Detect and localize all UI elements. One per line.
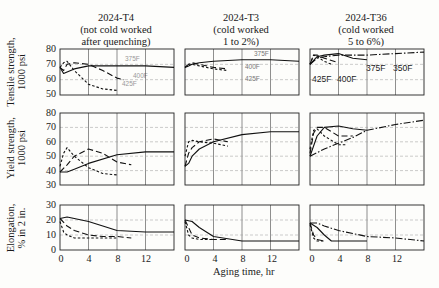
series-line-425F [310, 129, 346, 149]
series-line-425F [185, 64, 228, 70]
series-line-400F [60, 149, 131, 172]
panel-0-2 [310, 49, 424, 95]
panel-1-2 [310, 113, 424, 185]
panel-1-0 [60, 113, 174, 185]
panel-2-2 [310, 205, 424, 250]
panel-1-1 [185, 113, 299, 185]
panel-0-1 [185, 49, 299, 95]
panel-2-0 [60, 205, 174, 250]
series-line-425F [310, 55, 331, 64]
series-line-400F [185, 63, 228, 69]
series-line-400F [185, 220, 228, 240]
plot-grid [0, 0, 439, 288]
series-line-425F [185, 222, 214, 240]
panel-0-0 [60, 49, 174, 95]
panel-2-1 [185, 205, 299, 250]
